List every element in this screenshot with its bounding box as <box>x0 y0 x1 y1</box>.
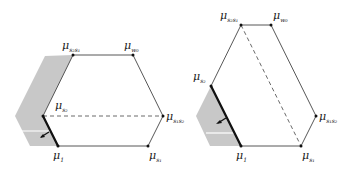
diagram-canvas: μs₂s₁ μw₀ μs₁s₂ μs₁ μ1 μs₂ μs₂s₁ μw₀ μs₁… <box>0 0 357 169</box>
label-mu-s1: μs₁ <box>302 149 315 163</box>
label-mu-1: μ1 <box>53 149 64 163</box>
right-hexagon-diagram: μs₂s₁ μw₀ μs₁s₂ μs₁ μ1 μs₂ <box>193 9 338 163</box>
label-mu-s1: μs₁ <box>149 149 162 163</box>
left-hexagon-diagram: μs₂s₁ μw₀ μs₁s₂ μs₁ μ1 μs₂ <box>15 39 185 163</box>
label-mu-s2: μs₂ <box>193 70 206 84</box>
label-mu-s2: μs₂ <box>55 99 68 113</box>
shaded-region <box>15 55 73 146</box>
label-mu-s1s2: μs₁s₂ <box>166 110 185 124</box>
label-mu-s2s1: μs₂s₁ <box>62 39 80 53</box>
label-mu-w0: μw₀ <box>273 9 288 23</box>
label-mu-1: μ1 <box>236 149 247 163</box>
label-mu-w0: μw₀ <box>124 39 139 53</box>
shaded-region <box>196 86 241 146</box>
dashed-line <box>241 25 301 146</box>
label-mu-s1s2: μs₁s₂ <box>319 110 338 124</box>
label-mu-s2s1: μs₂s₁ <box>220 9 238 23</box>
